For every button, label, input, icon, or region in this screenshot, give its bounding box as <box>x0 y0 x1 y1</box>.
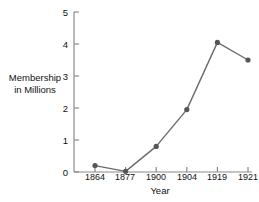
x-tick-label-1921: 1921 <box>231 172 259 182</box>
x-axis-title: Year <box>130 185 190 196</box>
x-tick-label-1877: 1877 <box>108 172 142 182</box>
data-point-markers <box>92 40 250 174</box>
x-tick-label-1864: 1864 <box>78 172 112 182</box>
membership-line-chart: Membership in Millions Year 5 4 3 2 1 0 … <box>0 0 259 202</box>
data-point-1864 <box>92 163 97 168</box>
y-tick-label-0: 0 <box>54 167 68 178</box>
data-point-1904 <box>184 107 189 112</box>
data-point-1900 <box>154 144 159 149</box>
data-point-1919 <box>215 40 220 45</box>
y-tick-label-1: 1 <box>54 135 68 146</box>
x-tick-label-1900: 1900 <box>139 172 173 182</box>
x-tick-label-1919: 1919 <box>200 172 234 182</box>
data-series-line <box>95 42 248 171</box>
y-tick-label-2: 2 <box>54 103 68 114</box>
axes <box>74 12 252 172</box>
y-tick-marks <box>74 12 79 172</box>
y-tick-label-4: 4 <box>54 39 68 50</box>
x-tick-label-1904: 1904 <box>170 172 204 182</box>
y-tick-label-3: 3 <box>54 71 68 82</box>
y-tick-label-5: 5 <box>54 7 68 18</box>
data-point-1921 <box>245 57 250 62</box>
